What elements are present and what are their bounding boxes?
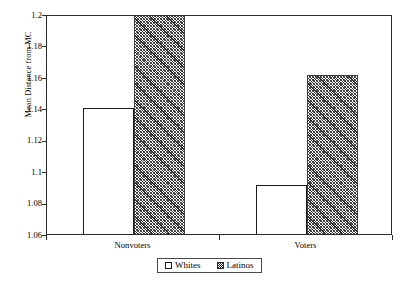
y-axis-ticks: 1.061.081.11.121.141.161.181.2 [0, 15, 42, 235]
bar-chart-figure: Mean Distance from MC 1.061.081.11.121.1… [0, 0, 407, 282]
y-tick-label: 1.14 [2, 105, 42, 114]
x-category-label: Nonvoters [83, 240, 183, 250]
bar-voters-whites [256, 185, 307, 234]
y-tick-label: 1.1 [2, 168, 42, 177]
x-tick-mark [392, 235, 393, 240]
plot-area [46, 15, 392, 235]
chart-legend: Whites Latinos [157, 258, 262, 273]
legend-label-latinos: Latinos [227, 261, 254, 270]
x-tick-mark [46, 235, 47, 240]
bar-nonvoters-latinos [134, 15, 185, 234]
y-tick-label: 1.12 [2, 136, 42, 145]
bar-voters-latinos [307, 75, 358, 234]
bar-nonvoters-whites [83, 108, 134, 234]
y-tick-label: 1.06 [2, 231, 42, 240]
x-category-label: Voters [256, 240, 356, 250]
x-tick-mark [219, 235, 220, 240]
legend-entry-latinos: Latinos [217, 261, 254, 270]
y-tick-label: 1.2 [2, 11, 42, 20]
legend-label-whites: Whites [175, 261, 201, 270]
white-square-swatch [165, 262, 172, 269]
legend-entry-whites: Whites [165, 261, 201, 270]
hatched-square-swatch [217, 262, 224, 269]
y-tick-label: 1.16 [2, 74, 42, 83]
y-tick-label: 1.18 [2, 42, 42, 51]
y-tick-label: 1.08 [2, 199, 42, 208]
